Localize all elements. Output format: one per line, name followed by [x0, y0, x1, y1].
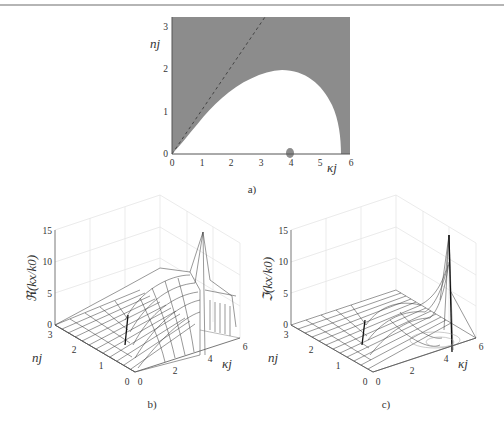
svg-text:2: 2 — [309, 345, 314, 355]
caption-c: c) — [382, 398, 391, 411]
svg-text:5: 5 — [283, 289, 288, 299]
svg-text:4: 4 — [444, 354, 449, 364]
panel-c-surface — [291, 235, 476, 372]
svg-text:0: 0 — [376, 377, 381, 387]
panel-c-plot: 0 5 10 15 0 1 2 3 0 2 4 6 nj κj ℑ(kx/k0)… — [0, 0, 504, 423]
svg-text:10: 10 — [279, 257, 289, 267]
svg-text:0: 0 — [283, 320, 288, 330]
panel-c-n-label: nj — [268, 350, 279, 365]
svg-text:3: 3 — [284, 330, 289, 340]
panel-c-k-label: κj — [458, 356, 468, 371]
svg-text:0: 0 — [363, 377, 368, 387]
svg-text:1: 1 — [336, 361, 341, 371]
panel-c-z-label: ℑ(kx/k0) — [260, 257, 275, 302]
svg-text:6: 6 — [479, 342, 484, 352]
panel-c-z-ticks: 0 5 10 15 — [279, 226, 289, 330]
svg-text:15: 15 — [279, 226, 289, 236]
svg-text:2: 2 — [410, 366, 415, 376]
